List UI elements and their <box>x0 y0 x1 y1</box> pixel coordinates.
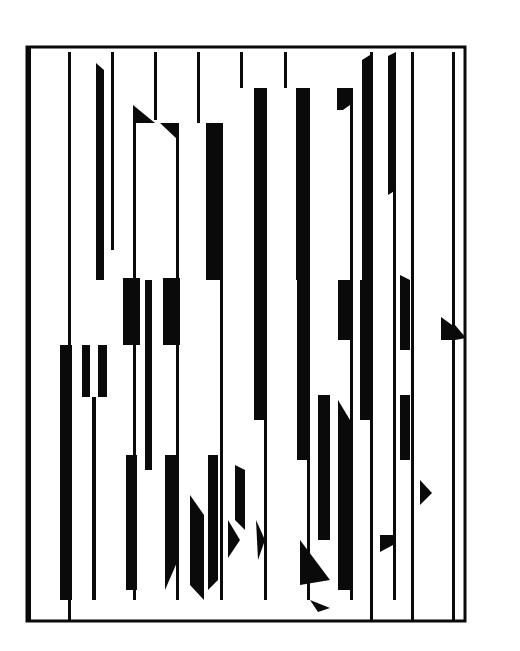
black-shape <box>145 280 152 470</box>
black-shape <box>60 345 72 600</box>
black-shape <box>208 455 218 590</box>
vertical-line <box>220 123 223 600</box>
black-shape <box>254 88 266 280</box>
black-shape <box>296 88 310 280</box>
vertical-line <box>197 52 200 123</box>
black-shape <box>362 55 370 280</box>
vertical-line <box>111 52 114 250</box>
black-shape <box>338 280 350 340</box>
vertical-line <box>350 88 353 600</box>
black-shape <box>163 278 180 345</box>
black-shape <box>297 280 310 460</box>
black-shape <box>123 278 140 345</box>
black-shape <box>98 345 107 397</box>
vertical-line <box>154 52 157 120</box>
vertical-line <box>452 52 455 620</box>
black-shape <box>206 123 220 280</box>
black-shape <box>400 395 410 460</box>
black-shape <box>360 280 372 420</box>
black-shape <box>254 280 266 420</box>
black-shape <box>96 63 104 280</box>
black-shape <box>388 52 396 195</box>
abstract-artwork <box>0 0 520 651</box>
vertical-line <box>411 52 414 620</box>
black-shape <box>400 275 410 350</box>
black-shape <box>92 397 96 600</box>
vertical-line <box>240 52 243 88</box>
black-shape <box>126 455 137 590</box>
black-shape <box>82 345 90 397</box>
black-shape <box>318 395 330 540</box>
black-shape <box>338 400 350 590</box>
vertical-line <box>284 52 287 88</box>
black-shape <box>235 465 245 530</box>
